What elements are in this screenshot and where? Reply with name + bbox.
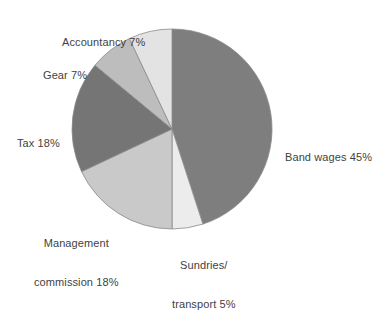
pie-label-management-commission: Management commission 18%	[34, 211, 119, 314]
pie-label-management-line2: commission 18%	[34, 276, 119, 289]
pie-label-sundries-transport: Sundries/ transport 5%	[172, 233, 236, 314]
pie-label-management-line1: Management	[34, 237, 119, 250]
pie-label-tax: Tax 18%	[17, 111, 60, 176]
pie-label-tax-text: Tax 18%	[17, 137, 60, 150]
pie-label-sundries-line1: Sundries/	[172, 259, 236, 272]
pie-label-gear: Gear 7%	[43, 43, 87, 108]
pie-label-band-wages: Band wages 45%	[285, 125, 372, 190]
pie-label-gear-text: Gear 7%	[43, 69, 87, 82]
pie-label-band-wages-text: Band wages 45%	[285, 151, 372, 164]
pie-label-sundries-line2: transport 5%	[172, 298, 236, 311]
